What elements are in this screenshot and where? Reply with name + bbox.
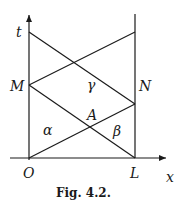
line-M-to-top-right [29,32,135,85]
line-top-left-to-N [29,32,135,104]
figure-caption: Fig. 4.2. [56,186,111,200]
point-M-label: M [9,78,25,94]
point-L-label: L [129,165,139,181]
point-A-label: A [85,107,97,123]
region-beta-label: β [112,123,121,139]
diagram: t x M N O L A α β γ Fig. 4.2. [0,0,183,200]
x-axis-label: x [166,169,174,185]
point-O-label: O [23,165,35,181]
region-gamma-label: γ [87,77,96,93]
point-N-label: N [138,78,152,94]
region-alpha-label: α [43,122,53,138]
t-axis-label: t [16,24,22,40]
